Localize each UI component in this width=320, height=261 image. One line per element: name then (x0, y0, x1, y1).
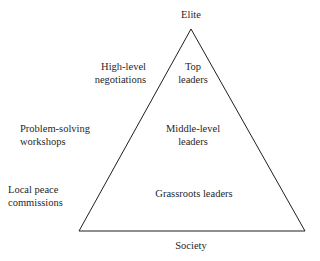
base-label-society: Society (150, 239, 232, 252)
level-label-middle-level-leaders: Middle-level leaders (142, 122, 244, 148)
apex-label-elite: Elite (150, 8, 232, 21)
approach-label-problem-solving-workshops: Problem-solving workshops (20, 122, 128, 148)
approach-label-high-level-negotiations: High-level negotiations (58, 60, 146, 86)
approach-label-local-peace-commissions: Local peace commissions (8, 183, 108, 209)
level-label-top-leaders: Top leaders (155, 60, 231, 86)
level-label-grassroots-leaders: Grassroots leaders (128, 187, 260, 200)
pyramid-figure: Elite High-level negotiations Problem-so… (0, 0, 320, 261)
